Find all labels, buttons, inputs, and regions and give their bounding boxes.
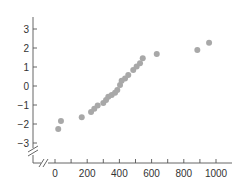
x-tick-label: 1000: [205, 168, 228, 179]
y-tick-label: 1: [23, 62, 29, 73]
data-point: [79, 114, 85, 120]
data-point: [194, 47, 200, 53]
x-tick-label: 800: [175, 168, 192, 179]
scatter-chart: 3210−1−2−3 02004006008001000: [0, 0, 243, 187]
x-tick-label: 400: [111, 168, 128, 179]
y-axis: 3210−1−2−3: [18, 17, 38, 163]
y-tick-label: 3: [23, 24, 29, 35]
y-tick-label: −2: [18, 119, 30, 130]
y-tick-label: −1: [18, 100, 30, 111]
x-tick-label: 600: [143, 168, 160, 179]
y-tick-label: −3: [18, 138, 30, 149]
x-tick-label: 200: [79, 168, 96, 179]
data-point: [206, 40, 212, 46]
data-point: [125, 72, 131, 78]
y-tick-label: 2: [23, 43, 29, 54]
x-tick-label: 0: [52, 168, 58, 179]
y-tick-label: 0: [23, 81, 29, 92]
data-point: [95, 103, 101, 109]
data-point: [55, 126, 61, 132]
data-point: [154, 51, 160, 57]
x-axis: 02004006008001000: [33, 159, 232, 179]
data-points: [55, 40, 212, 132]
data-point: [58, 118, 64, 124]
data-point: [140, 55, 146, 61]
